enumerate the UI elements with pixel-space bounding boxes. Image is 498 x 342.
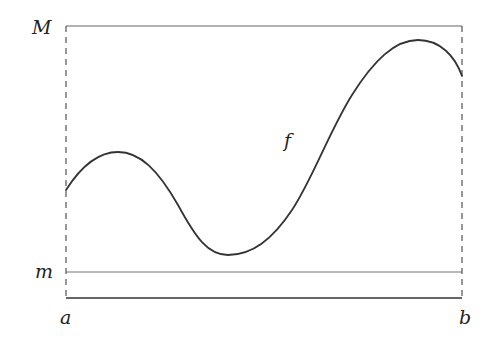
interval-start-label: a (60, 306, 71, 328)
upper-bound-label: M (31, 16, 52, 38)
function-bounds-diagram: M m a b f (0, 0, 498, 342)
function-label: f (282, 129, 294, 151)
function-curve (66, 40, 462, 255)
interval-end-label: b (459, 306, 471, 328)
lower-bound-label: m (35, 260, 53, 282)
